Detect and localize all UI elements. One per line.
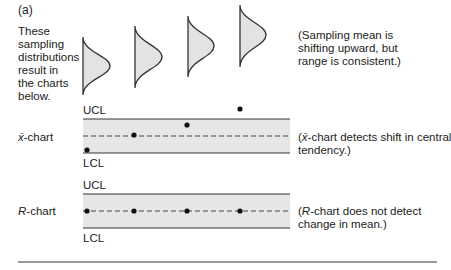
r-point-1 — [84, 208, 89, 213]
r-point-4 — [237, 208, 242, 213]
panel-label: (a) — [18, 4, 33, 17]
intro-text: These sampling distributions result in t… — [18, 25, 79, 103]
r-chart-graphic — [83, 194, 290, 228]
r-chart-label: R-chart — [18, 205, 56, 218]
distribution-curve-1 — [83, 37, 110, 95]
distribution-curve-4 — [240, 5, 266, 67]
xbar-chart-label: x̄-chart — [18, 131, 53, 144]
xbar-point-4 — [237, 106, 242, 111]
r-ucl-label: UCL — [83, 179, 106, 192]
xbar-ucl-label: UCL — [83, 104, 106, 117]
r-note: (R-chart does not detect change in mean.… — [298, 205, 421, 231]
r-lcl-label: LCL — [83, 232, 104, 245]
r-point-3 — [184, 208, 189, 213]
xbar-point-2 — [131, 132, 136, 137]
r-point-2 — [131, 208, 136, 213]
xbar-point-3 — [184, 122, 189, 127]
xbar-note: (x̄-chart detects shift in central tende… — [298, 131, 451, 157]
distribution-curve-3 — [188, 16, 214, 77]
xbar-chart-graphic — [83, 106, 290, 153]
xbar-lcl-label: LCL — [83, 157, 104, 170]
distribution-curves — [83, 5, 266, 95]
distribution-curve-2 — [135, 26, 162, 88]
top-note: (Sampling mean is shifting upward, but r… — [298, 29, 401, 68]
xbar-point-1 — [84, 147, 89, 152]
